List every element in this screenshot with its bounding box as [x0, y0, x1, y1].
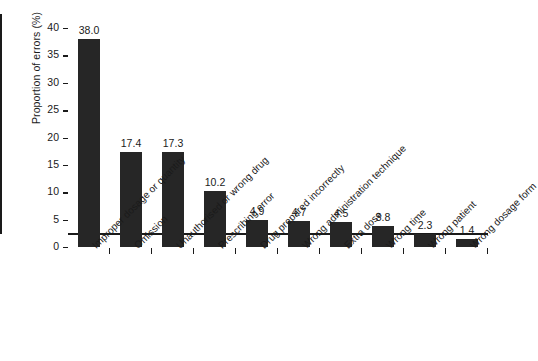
x-tick: [403, 248, 404, 254]
y-tick: 15: [63, 165, 68, 166]
y-tick: 5: [63, 220, 68, 221]
x-tick: [235, 248, 236, 254]
x-tick: [277, 248, 278, 254]
y-tick-label: 40: [35, 21, 59, 33]
bar-value-label: 17.3: [153, 137, 193, 149]
x-tick: [193, 248, 194, 254]
y-tick: 20: [63, 138, 68, 139]
y-tick: 40: [63, 28, 68, 29]
y-tick: 25: [63, 110, 68, 111]
y-tick: 30: [63, 83, 68, 84]
y-tick-label: 0: [35, 240, 59, 252]
x-tick: [319, 248, 320, 254]
y-tick-label: 35: [35, 48, 59, 60]
x-tick: [445, 248, 446, 254]
y-tick-label: 25: [35, 103, 59, 115]
y-tick: 0: [63, 247, 68, 248]
x-tick: [487, 248, 488, 254]
x-tick: [151, 248, 152, 254]
y-tick-label: 10: [35, 185, 59, 197]
y-tick: 10: [63, 192, 68, 193]
y-tick-label: 30: [35, 76, 59, 88]
bar-value-label: 38.0: [69, 24, 109, 36]
x-tick: [109, 248, 110, 254]
y-tick-label: 20: [35, 131, 59, 143]
y-tick-label: 5: [35, 213, 59, 225]
y-tick-label: 15: [35, 158, 59, 170]
y-axis-line: [0, 14, 2, 234]
bar: [78, 39, 100, 247]
bar-value-label: 17.4: [111, 137, 151, 149]
x-tick: [361, 248, 362, 254]
y-tick: 35: [63, 55, 68, 56]
